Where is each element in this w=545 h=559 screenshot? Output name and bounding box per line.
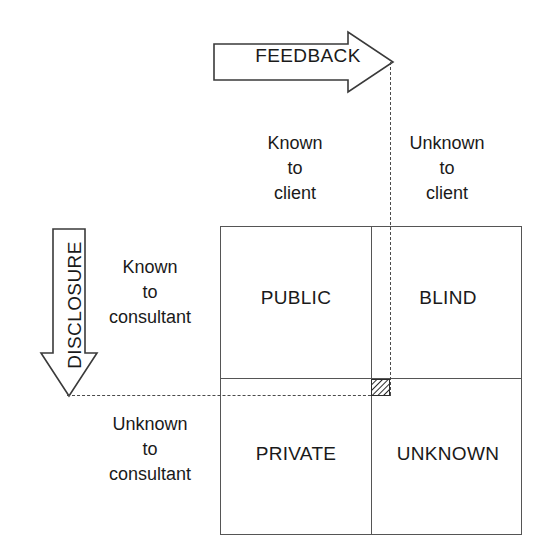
quadrant-unknown: UNKNOWN <box>373 443 523 465</box>
col-header-line-2: to <box>220 156 370 181</box>
row-header-unknown-to-consultant: Unknown to consultant <box>82 412 218 487</box>
quadrant-private: PRIVATE <box>221 443 371 465</box>
quadrant-blind: BLIND <box>373 287 523 309</box>
disclosure-dashed-guide <box>67 395 391 396</box>
row-header-line-1: Known <box>82 255 218 280</box>
hatched-intersection-marker <box>371 379 390 396</box>
row-header-line-2: to <box>82 437 218 462</box>
col-header-line-1: Known <box>220 131 370 156</box>
column-header-known-to-client: Known to client <box>220 131 370 206</box>
feedback-arrow-label: FEEDBACK <box>233 45 383 67</box>
row-header-line-3: consultant <box>82 305 218 330</box>
col-header-line-1: Unknown <box>372 131 522 156</box>
johari-window-diagram: FEEDBACK DISCLOSURE Known to client Unkn… <box>0 0 545 559</box>
column-header-unknown-to-client: Unknown to client <box>372 131 522 206</box>
quadrant-public: PUBLIC <box>221 287 371 309</box>
row-header-line-3: consultant <box>82 462 218 487</box>
feedback-dashed-guide <box>390 62 391 395</box>
row-header-line-2: to <box>82 280 218 305</box>
row-header-known-to-consultant: Known to consultant <box>82 255 218 330</box>
row-header-line-1: Unknown <box>82 412 218 437</box>
col-header-line-3: client <box>372 181 522 206</box>
col-header-line-3: client <box>220 181 370 206</box>
col-header-line-2: to <box>372 156 522 181</box>
